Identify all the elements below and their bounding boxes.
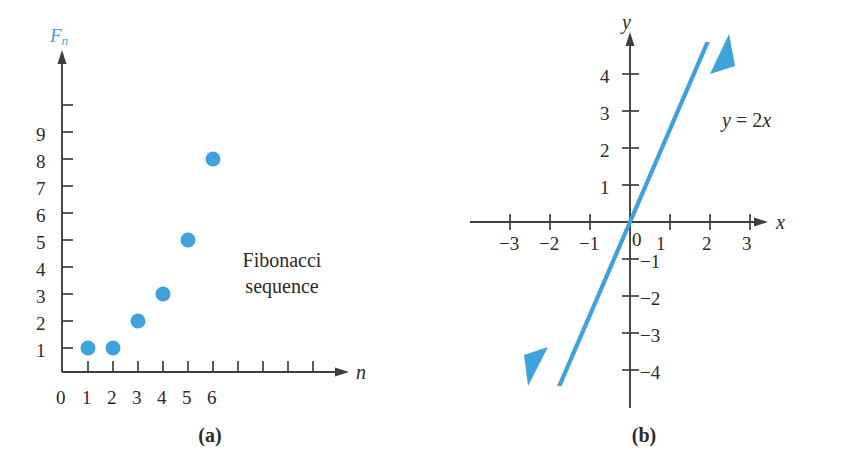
- data-point: [131, 314, 146, 329]
- panel-b-y-tick-label-4: 4: [600, 67, 610, 86]
- x-tick-label-2: 2: [107, 388, 117, 407]
- equation-label: y = 2x: [722, 110, 771, 130]
- x-tick-label-3: 3: [132, 388, 142, 407]
- annotation-line-2: sequence: [222, 274, 342, 300]
- panel-b-y-tick-label-2: 2: [600, 141, 610, 160]
- panel-b-y-axis-label: y: [622, 12, 631, 32]
- y-tick-label-7: 7: [36, 179, 46, 198]
- x-tick-label-6: 6: [207, 388, 217, 407]
- x-tick-label-0: 0: [56, 388, 66, 407]
- panel-b-caption: (b): [604, 425, 684, 445]
- y-tick-label-6: 6: [36, 206, 46, 225]
- panel-b-y-tick-label-minus2: −2: [640, 289, 660, 308]
- panel-b-x-tick-label-3: 3: [742, 234, 752, 253]
- x-axis-group: [62, 368, 349, 377]
- y-tick-label-9: 9: [36, 125, 46, 144]
- y-tick-label-3: 3: [36, 287, 46, 306]
- panel-a-x-axis-label: n: [356, 362, 366, 382]
- y-tick-label-1: 1: [36, 341, 46, 360]
- equation-coefficient: 2: [752, 109, 762, 131]
- panel-b-x-tick-label-1: 1: [656, 234, 666, 253]
- panel-b-y-tick-label-minus1: −1: [640, 252, 660, 271]
- panel-b-y-tick-label-minus4: −4: [640, 363, 660, 382]
- panel-b-x-tick-label-2: 2: [702, 234, 712, 253]
- y-tick-label-2: 2: [36, 314, 46, 333]
- x-tick-label-1: 1: [82, 388, 92, 407]
- data-point: [206, 152, 221, 167]
- data-point: [181, 233, 196, 248]
- panel-b-y-tick-label-3: 3: [600, 104, 610, 123]
- scatter-points: [81, 152, 221, 356]
- y-axis-label-subscript: n: [62, 33, 69, 48]
- annotation-line-1: Fibonacci: [222, 248, 342, 274]
- data-point: [81, 341, 96, 356]
- x-tick-label-5: 5: [182, 388, 192, 407]
- panel-a-fibonacci-scatter: Fn n 1 2 3 4 5 6 7 8 9 0 1 2 3 4 5 6 Fib…: [0, 0, 424, 465]
- data-point: [106, 341, 121, 356]
- y-axis-ticks: [62, 105, 73, 348]
- panel-b-x-tick-label-minus3: −3: [499, 234, 519, 253]
- equation-operator: =: [736, 109, 747, 131]
- panel-a-caption: (a): [170, 425, 250, 445]
- data-point: [156, 287, 171, 302]
- x-axis-ticks: [88, 361, 313, 372]
- panel-b-x-axis-label: x: [776, 212, 785, 232]
- y-tick-label-4: 4: [36, 260, 46, 279]
- panel-b-x-tick-label-minus2: −2: [539, 234, 559, 253]
- x-axis-group: [470, 218, 768, 227]
- panel-b-y-tick-label-minus3: −3: [640, 326, 660, 345]
- panel-b-x-tick-label-0: 0: [632, 230, 642, 249]
- fibonacci-annotation: Fibonacci sequence: [222, 248, 342, 299]
- panel-b-y-tick-label-1: 1: [600, 178, 610, 197]
- panel-a-y-axis-label: Fn: [50, 26, 68, 45]
- equation-variable: x: [762, 109, 771, 131]
- panel-b-x-tick-label-minus1: −1: [579, 234, 599, 253]
- y-axis-group: [58, 50, 67, 372]
- equation-lhs: y: [722, 109, 731, 131]
- figure-root: Fn n 1 2 3 4 5 6 7 8 9 0 1 2 3 4 5 6 Fib…: [0, 0, 847, 465]
- panel-b-line-graph: y x 4 3 2 1 −1 −2 −3 −4 −3 −2 −1 0 1 2 3…: [424, 0, 847, 465]
- y-tick-label-5: 5: [36, 233, 46, 252]
- x-tick-label-4: 4: [157, 388, 167, 407]
- y-axis-label-base: F: [50, 25, 62, 46]
- y-tick-label-8: 8: [36, 152, 46, 171]
